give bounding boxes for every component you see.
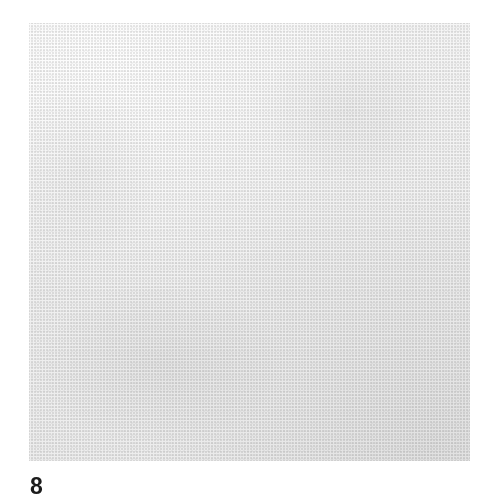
- figure-caption: 8: [30, 473, 43, 499]
- wrist-hand-occlusion: [275, 229, 327, 289]
- photo-plate: [29, 23, 470, 461]
- thumb-tip-highlight: [314, 307, 336, 325]
- skin-mark-2: [198, 204, 202, 207]
- skin-mark-3: [175, 229, 178, 232]
- skin-mark-1: [121, 217, 126, 221]
- figure-page: 8: [0, 0, 499, 504]
- body-shading-group: [29, 153, 419, 353]
- photo-subject-forearm-fist: [29, 23, 470, 461]
- forearm-fist-illustration: [29, 23, 470, 461]
